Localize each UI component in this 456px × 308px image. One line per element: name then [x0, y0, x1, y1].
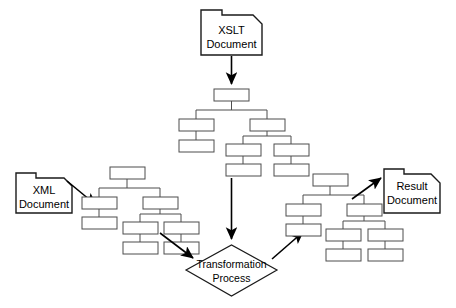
tree-node [274, 164, 309, 176]
tree-node [110, 167, 145, 179]
result-document-label-line1: Result [396, 180, 427, 192]
tree-node [250, 119, 285, 131]
tree-node [164, 242, 199, 254]
tree-node [326, 249, 361, 261]
tree-node [164, 222, 199, 234]
transformation-process-label-line1: Transformation [196, 258, 266, 270]
source-tree[interactable] [82, 167, 199, 254]
transformation-process-node[interactable]: Transformation Process [186, 245, 277, 296]
tree-node [286, 204, 321, 216]
tree-node [123, 222, 158, 234]
tree-node [368, 249, 403, 261]
transformation-process-label-line2: Process [213, 272, 251, 284]
tree-node [179, 119, 214, 131]
tree-node [368, 229, 403, 241]
tree-node [82, 197, 117, 209]
tree-node [123, 242, 158, 254]
xslt-document-label-line1: XSLT [218, 24, 245, 36]
xslt-document-node[interactable]: XSLT Document [201, 10, 262, 55]
tree-node [347, 204, 382, 216]
arrow-result-tree-to-result-document [352, 178, 381, 199]
tree-node [179, 140, 214, 152]
transformation-process-shape [186, 245, 277, 296]
tree-node [226, 144, 261, 156]
result-document-label-line2: Document [387, 194, 437, 206]
xml-document-label-line1: XML [33, 184, 56, 196]
tree-node [226, 164, 261, 176]
diagram-canvas: XSLT Document XML Document [0, 0, 456, 308]
tree-node [313, 174, 348, 186]
tree-node [326, 229, 361, 241]
tree-node [214, 89, 249, 101]
tree-node [274, 144, 309, 156]
tree-node [82, 217, 117, 229]
result-document-node[interactable]: Result Document [384, 169, 440, 213]
stylesheet-tree[interactable] [179, 89, 309, 176]
xml-document-label-line2: Document [19, 198, 69, 210]
xml-document-node[interactable]: XML Document [16, 173, 72, 213]
tree-node [286, 224, 321, 236]
xslt-document-label-line2: Document [206, 38, 256, 50]
tree-node [143, 197, 178, 209]
xslt-transformation-diagram: XSLT Document XML Document [0, 0, 456, 308]
